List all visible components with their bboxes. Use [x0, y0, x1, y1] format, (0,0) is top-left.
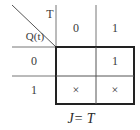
- cell-r0-c1: 1: [96, 47, 134, 76]
- row-header-0: 0: [12, 47, 56, 76]
- cell-r0-c0: [56, 47, 96, 76]
- column-variable-label: T: [44, 8, 56, 20]
- column-header-0: 0: [56, 10, 96, 47]
- cell-r1-c0: ×: [56, 76, 96, 104]
- kmap-caption: J= T: [56, 111, 106, 127]
- cell-r1-c1: ×: [96, 76, 134, 104]
- row-header-1: 1: [12, 76, 56, 104]
- column-header-1: 1: [96, 10, 134, 47]
- row-variable-label: Q(t): [20, 31, 50, 42]
